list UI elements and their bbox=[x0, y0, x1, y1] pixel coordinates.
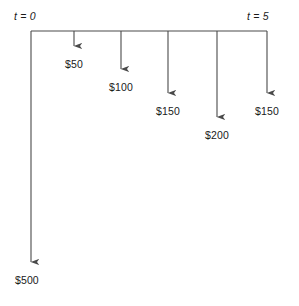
axis-end-label: t = 5 bbox=[247, 10, 269, 22]
cash-label-period-4: $200 bbox=[205, 129, 229, 141]
cash-label-period-5: $150 bbox=[255, 105, 279, 117]
cash-label-period-3: $150 bbox=[156, 105, 180, 117]
cash-label-period-0: $500 bbox=[15, 274, 39, 286]
axis-start-label: t = 0 bbox=[14, 10, 36, 22]
cash-flow-diagram: t = 0 t = 5 $500 $50 $100 $150 $200 $150 bbox=[0, 0, 299, 306]
cash-label-period-2: $100 bbox=[109, 81, 133, 93]
cash-label-period-1: $50 bbox=[65, 58, 83, 70]
timeline-graphic bbox=[0, 0, 299, 306]
